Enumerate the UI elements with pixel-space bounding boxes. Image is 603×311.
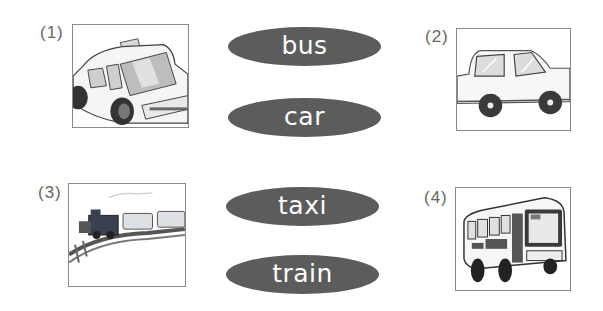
train-picture [68,183,186,287]
train-icon [69,184,185,286]
item-number-4: (4) [424,188,448,208]
taxi-icon [73,25,188,127]
taxi-picture [72,24,189,128]
item-number-2: (2) [425,27,449,47]
word-label: bus [281,33,327,58]
word-pill-train[interactable]: train [226,255,379,294]
item-number-3: (3) [38,183,62,203]
word-label: taxi [278,193,327,218]
bus-icon [456,188,570,290]
word-pill-taxi[interactable]: taxi [226,187,379,226]
bus-picture [455,187,571,291]
item-number-1: (1) [40,23,64,43]
car-picture [456,28,571,131]
word-pill-bus[interactable]: bus [228,27,381,66]
word-label: car [284,104,325,129]
word-pill-car[interactable]: car [228,98,381,137]
word-label: train [272,261,333,286]
car-icon [457,29,570,130]
